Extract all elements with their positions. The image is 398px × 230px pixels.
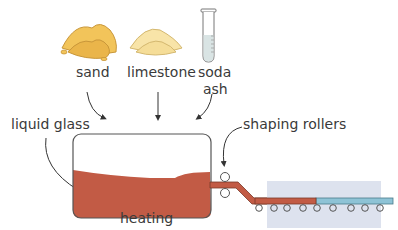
- liquid-glass-label: liquid glass: [11, 116, 90, 132]
- shaping-rollers-label: shaping rollers: [243, 116, 346, 132]
- furnace: [73, 134, 211, 218]
- soda-label: soda: [198, 64, 231, 80]
- glass-making-diagram: [0, 0, 398, 230]
- sand-label: sand: [76, 64, 110, 80]
- cooled-glass: [316, 198, 393, 204]
- limestone-label: limestone: [127, 64, 196, 80]
- heating-label: heating: [120, 210, 173, 226]
- sand-pile-icon: [61, 24, 116, 60]
- limestone-pile-icon: [130, 29, 182, 55]
- ash-label: ash: [203, 81, 228, 97]
- test-tube-icon: [201, 9, 216, 62]
